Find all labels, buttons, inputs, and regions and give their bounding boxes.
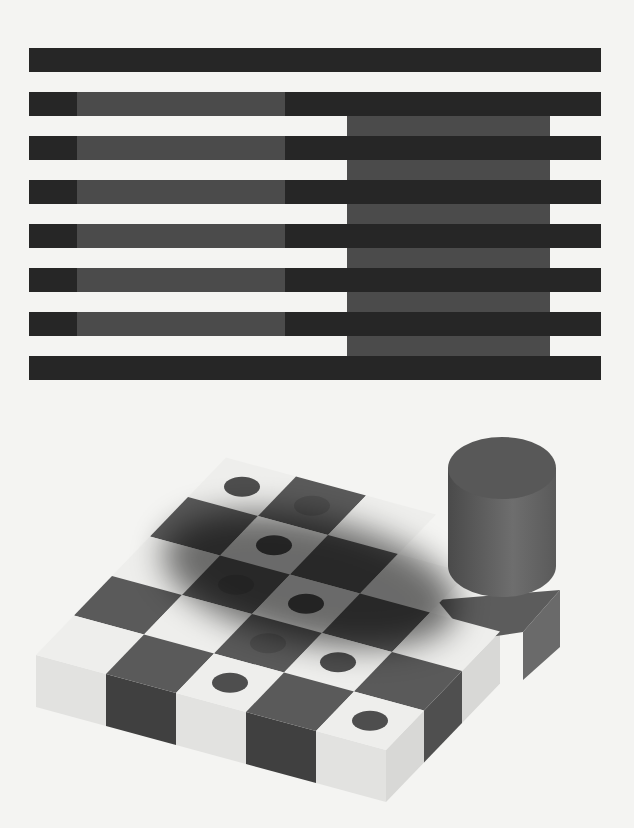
dot	[212, 673, 248, 693]
illusion-figure	[0, 0, 634, 828]
dot	[352, 711, 388, 731]
cylinder-top	[448, 437, 556, 499]
dot	[294, 496, 330, 516]
checker-shadow-illusion	[0, 0, 634, 828]
dot	[320, 652, 356, 672]
dot	[224, 477, 260, 497]
